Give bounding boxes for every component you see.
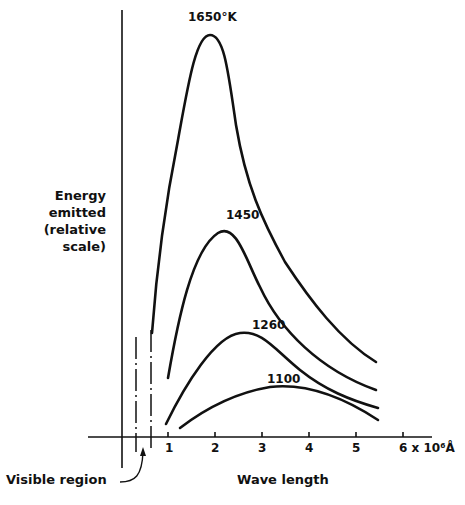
curve-label-1450: 1450 [226, 208, 259, 222]
x-tick-label: 5 [352, 441, 360, 455]
curve-1100 [180, 386, 378, 428]
x-axis-label: Wave length [237, 472, 329, 487]
visible-region-arrow [120, 452, 143, 482]
curve-label-1260: 1260 [252, 318, 285, 332]
y-axis-label: Energy emitted (relative scale) [18, 187, 106, 255]
x-tick-label: 3 [258, 441, 266, 455]
curve-label-1100: 1100 [267, 372, 300, 386]
arrow-head-icon [140, 447, 146, 456]
curve-label-1650K: 1650°K [188, 10, 237, 24]
x-tick-label: 2 [211, 441, 219, 455]
x-tick-label: 1 [165, 441, 173, 455]
y-axis-label-line: emitted [18, 204, 106, 221]
y-axis-label-line: Energy [18, 187, 106, 204]
y-axis-label-line: scale) [18, 238, 106, 255]
x-tick-label-unit: 6 x 10⁶Å [399, 441, 455, 455]
y-axis-label-line: (relative [18, 221, 106, 238]
x-tick-label: 4 [305, 441, 313, 455]
visible-region-label: Visible region [6, 472, 107, 487]
curve-1650K [152, 35, 376, 362]
